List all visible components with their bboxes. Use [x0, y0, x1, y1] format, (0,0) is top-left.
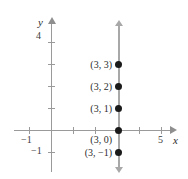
point-dot — [115, 61, 122, 68]
y-axis-label: y — [38, 16, 43, 28]
x-tick-2 — [95, 127, 96, 134]
y-tick-1 — [48, 108, 55, 109]
x-axis-line — [14, 130, 172, 131]
point-label: (3, 3) — [60, 59, 112, 70]
point-dot — [115, 105, 122, 112]
vertical-line-arrow-bottom-icon — [115, 167, 123, 173]
point-dot — [115, 83, 122, 90]
point-label: (3, 0) — [60, 134, 112, 145]
x-tick-1 — [73, 127, 74, 134]
y-tick-2 — [48, 86, 55, 87]
point-label: (3, 1) — [60, 103, 112, 114]
x-tick-5 — [161, 127, 162, 134]
x-tick-label-minus1: −1 — [21, 134, 32, 145]
x-tick-label-5: 5 — [158, 134, 163, 145]
coordinate-plane-figure: y x −1 5 4 −1 (3, 3) (3, 2) (3, 1) (3, 0… — [0, 0, 188, 179]
point-dot — [115, 127, 122, 134]
vertical-line-x-equals-3 — [118, 25, 120, 169]
vertical-line-arrow-top-icon — [115, 20, 123, 26]
x-axis-arrow-icon — [170, 126, 177, 134]
x-axis-label: x — [173, 134, 178, 146]
y-tick-label-4: 4 — [36, 30, 41, 41]
point-label: (3, −1) — [54, 147, 112, 158]
y-tick-label-minus1: −1 — [31, 145, 42, 156]
x-tick-minus1 — [29, 127, 30, 134]
point-dot — [115, 149, 122, 156]
y-axis-arrow-icon — [48, 17, 56, 24]
y-axis-line — [51, 22, 52, 172]
point-label: (3, 2) — [60, 81, 112, 92]
x-tick-4 — [139, 127, 140, 134]
y-tick-3 — [48, 64, 55, 65]
y-tick-4 — [48, 42, 55, 43]
